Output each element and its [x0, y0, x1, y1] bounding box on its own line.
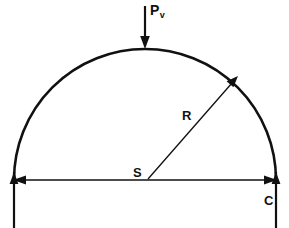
arch-curve [14, 49, 276, 180]
left-reaction-arrow-icon [10, 172, 19, 184]
support-label: C [264, 194, 273, 207]
arch-diagram: Pv R S C [0, 0, 289, 228]
right-reaction-arrow-icon [272, 172, 281, 184]
down-arrow-icon [140, 36, 150, 49]
radius-line [148, 83, 232, 179]
load-label-subscript: v [160, 10, 165, 20]
span-label: S [133, 166, 142, 179]
arch-diagram-canvas [0, 0, 289, 228]
radius-label: R [182, 109, 191, 122]
load-label: Pv [150, 3, 164, 17]
load-label-base: P [150, 2, 159, 18]
